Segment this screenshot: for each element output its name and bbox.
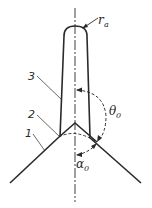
alpha-subscript: 0 bbox=[84, 164, 89, 173]
leader-2 bbox=[37, 115, 59, 136]
theta-subscript: 0 bbox=[116, 111, 121, 120]
theta-arrow-top-icon bbox=[76, 88, 82, 93]
theta-arrow-bottom-icon bbox=[97, 135, 102, 142]
part-3-label: 3 bbox=[28, 70, 35, 83]
radius-arrow-icon bbox=[82, 24, 88, 29]
diagram-canvas: r a 3 2 1 θ 0 α 0 bbox=[0, 0, 152, 208]
surface-v-right bbox=[59, 137, 141, 183]
surface-v bbox=[10, 137, 59, 183]
leader-3 bbox=[37, 76, 62, 100]
radius-subscript: a bbox=[104, 20, 109, 29]
theta-arc bbox=[77, 90, 106, 141]
part-2-label: 2 bbox=[28, 108, 35, 121]
leader-1 bbox=[33, 134, 45, 151]
alpha-label: α bbox=[76, 157, 84, 171]
surface-v-right-segment bbox=[89, 137, 141, 183]
part-1-label: 1 bbox=[25, 127, 32, 140]
